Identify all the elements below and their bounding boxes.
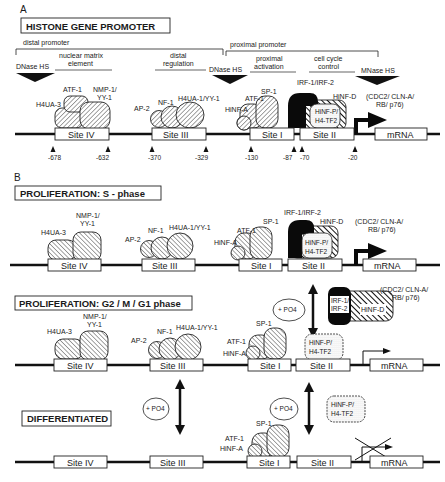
dnase-hs-2-marker — [212, 75, 248, 84]
factor-label: HiNF-A — [223, 350, 246, 357]
tss-arrow — [356, 120, 370, 134]
proximal-promoter-label: proximal promoter — [230, 41, 287, 49]
mrna-label: mRNA — [374, 261, 401, 271]
factor-label: IRF-1/ — [331, 297, 349, 304]
factor-label: H4UA-1/YY-1 — [176, 324, 218, 331]
state-s-phase: PROLIFERATION: S - phase H4UA-3 NMP-1/ Y… — [10, 186, 440, 271]
panel-b: B PROLIFERATION: S - phase H4UA-3 NMP-1/… — [10, 172, 440, 468]
factor-label: SP-1 — [256, 320, 272, 327]
factor-label: NMP-1/ — [83, 313, 107, 320]
mnase-hs-marker — [355, 76, 400, 85]
site-iii-label: Site III — [160, 361, 186, 371]
factor-label: HiNF-P/ — [331, 401, 354, 408]
position-632: -632 — [96, 154, 109, 161]
factor-label: HiNF-D — [320, 218, 343, 225]
site-i-label: Site I — [259, 458, 280, 468]
panel-a-letter: A — [20, 4, 27, 15]
factor-label: H4UA-3 — [47, 328, 72, 335]
ap2-label: AP-2 — [134, 105, 150, 112]
site-iv-label: Site IV — [68, 130, 95, 140]
factor-label: (CDC2/ CLN-A/ — [355, 218, 403, 226]
po4-label: + PO4 — [146, 405, 165, 412]
factor-label: YY-1 — [80, 220, 95, 227]
nmp1-label-a: NMP-1/ — [93, 86, 117, 93]
position-70: -70 — [300, 154, 310, 161]
atf1-label: ATF-1 — [245, 95, 264, 102]
mnase-hs-label: MNase HS — [361, 67, 395, 74]
position-130: -130 — [245, 154, 258, 161]
differentiated-title: DIFFERENTIATED — [27, 413, 108, 424]
panel-a-title: HISTONE GENE PROMOTER — [26, 21, 155, 32]
factor-label: HiNF-D — [361, 306, 384, 313]
position-370: -370 — [148, 154, 161, 161]
distal-regulation-label-1: distal — [170, 52, 187, 59]
distal-promoter-bracket — [16, 49, 223, 55]
s-phase-title: PROLIFERATION: S - phase — [20, 188, 145, 199]
state-differentiated: DIFFERENTIATED + PO4 HiNF-P/ H4-TF2 HiNF… — [15, 382, 440, 468]
factor-label: H4-TF2 — [305, 248, 327, 255]
mrna-label: mRNA — [381, 458, 408, 468]
factor-label: YY-1 — [87, 321, 102, 328]
site-iv-label: Site IV — [67, 361, 94, 371]
site-iii-label: Site III — [152, 261, 178, 271]
position-markers: -678 -632 -370 -329 -130 -87 -70 -20 — [48, 146, 358, 161]
site-i-label: Site I — [262, 130, 283, 140]
atf1-iv-label: ATF-1 — [63, 86, 82, 93]
nmp1-factor — [80, 102, 110, 129]
site-iv-label: Site IV — [61, 261, 88, 271]
site-iii-label: Site III — [163, 130, 189, 140]
factor-label: NMP-1/ — [76, 212, 100, 219]
factor-label: HiNF-P/ — [305, 239, 328, 246]
factor-label: NF-1 — [157, 328, 173, 335]
site-ii-label: Site II — [311, 458, 334, 468]
factor-label: H4UA-1/YY-1 — [169, 224, 211, 231]
hinfp-label-a: HiNF-P/ — [315, 108, 338, 115]
factor-label: ATF-1 — [225, 435, 244, 442]
proximal-promoter-bracket — [226, 51, 378, 57]
site-ii-label: Site II — [310, 361, 333, 371]
nuclear-matrix-label-2: element — [68, 60, 93, 67]
position-329: -329 — [195, 154, 208, 161]
factor-label: HiNF-A — [220, 445, 243, 452]
factor-label: AP-2 — [131, 337, 147, 344]
factor-label: IRF-1/IRF-2 — [284, 209, 321, 216]
site-ii-label: Site II — [302, 261, 325, 271]
nuclear-matrix-label-1: nuclear matrix — [59, 52, 103, 59]
distal-regulation-label-2: regulation — [163, 60, 194, 68]
proximal-activation-label-1: proximal — [256, 55, 283, 63]
panel-a: A HISTONE GENE PROMOTER distal promoter … — [15, 4, 440, 161]
factor-label: H4UA-3 — [41, 229, 66, 236]
factor-label: RB/ p76) — [392, 294, 420, 302]
site-iv-label: Site IV — [67, 458, 94, 468]
factor-label: SP-1 — [263, 218, 279, 225]
nf1-label: NF-1 — [158, 99, 174, 106]
dnase-hs-2-label: DNase HS — [209, 66, 242, 73]
factor-label: RB/ p76) — [368, 226, 396, 234]
cdc2-label-b: RB/ p76) — [376, 101, 404, 109]
panel-b-letter: B — [14, 172, 21, 183]
nmp1-label-b: YY-1 — [97, 94, 112, 101]
irf-label: IRF-1/IRF-2 — [297, 79, 334, 86]
site-i-label: Site I — [251, 261, 272, 271]
site-i-label: Site I — [260, 361, 281, 371]
po4-label: + PO4 — [274, 405, 293, 412]
hinfa-label: HiNF-A — [225, 106, 248, 113]
factor-label: AP-2 — [125, 236, 141, 243]
proximal-activation-label-2: activation — [254, 63, 284, 70]
factor-label: ATF-1 — [237, 227, 256, 234]
factor-label: (CDC2/ CLN-A/ — [380, 286, 428, 294]
position-20: -20 — [348, 154, 358, 161]
hinfp-label-b: H4-TF2 — [315, 117, 337, 124]
h4ua3-label: H4UA-3 — [36, 101, 61, 108]
position-678: -678 — [48, 154, 61, 161]
position-87: -87 — [283, 154, 293, 161]
factor-label: HiNF-P/ — [309, 339, 332, 346]
sp1-label: SP-1 — [261, 88, 277, 95]
factor-label: ATF-1 — [227, 338, 246, 345]
factor-label: H4-TF2 — [309, 348, 331, 355]
factor-label: HiNF-A — [214, 239, 237, 246]
dnase-hs-1-label: DNase HS — [16, 63, 49, 70]
factor-label: NF-1 — [148, 227, 164, 234]
factor-label: SP-1 — [256, 420, 272, 427]
mrna-label: mRNA — [381, 361, 408, 371]
